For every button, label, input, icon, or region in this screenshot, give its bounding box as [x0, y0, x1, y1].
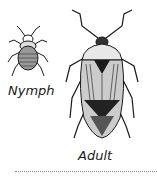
adult-label: Adult [78, 148, 112, 163]
dotted-divider [15, 171, 157, 172]
nymph-label: Nymph [8, 83, 55, 98]
nymph-bug-icon [6, 24, 50, 80]
adult-bug-icon [60, 8, 144, 146]
